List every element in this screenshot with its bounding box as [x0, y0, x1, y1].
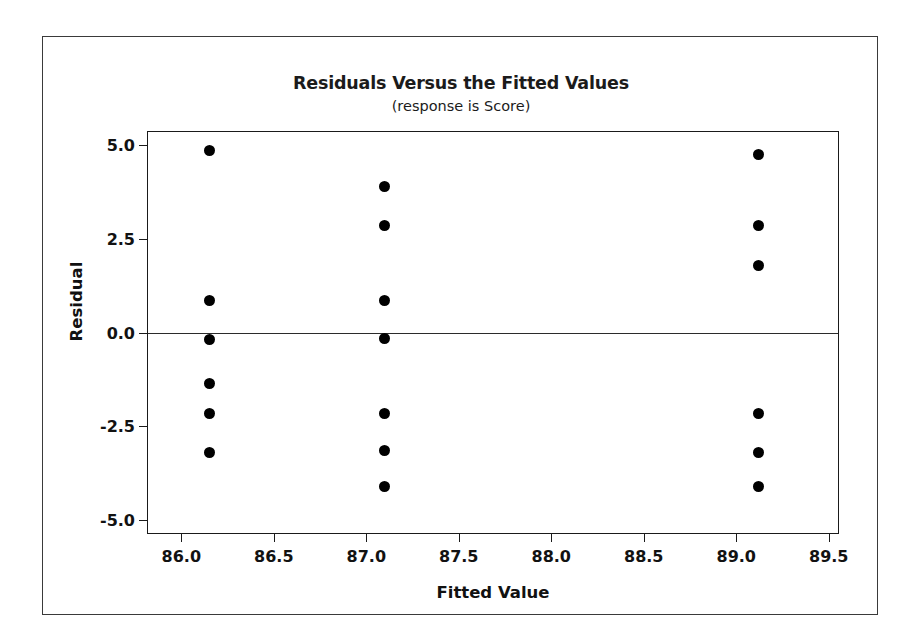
data-point: [379, 333, 390, 344]
x-axis-tick-mark: [459, 533, 460, 542]
x-axis-tick-mark: [551, 533, 552, 542]
scatter-points-layer: [148, 132, 838, 533]
data-point: [753, 260, 764, 271]
x-axis-tick-mark: [829, 533, 830, 542]
data-point: [379, 295, 390, 306]
data-point: [753, 447, 764, 458]
data-point: [204, 295, 215, 306]
y-axis-title: Residual: [67, 242, 86, 362]
x-axis-tick-label: 87.5: [439, 547, 478, 566]
y-axis-tick-label: 0.0: [107, 323, 135, 342]
data-point: [204, 447, 215, 458]
data-point: [204, 408, 215, 419]
x-axis-tick-label: 86.5: [254, 547, 293, 566]
figure-outer-frame: Residuals Versus the Fitted Values (resp…: [42, 36, 878, 615]
chart-subtitle: (response is Score): [43, 98, 879, 114]
x-axis-tick-mark: [736, 533, 737, 542]
x-axis-title: Fitted Value: [147, 583, 839, 602]
data-point: [753, 149, 764, 160]
y-axis-tick-mark: [139, 333, 148, 334]
data-point: [379, 220, 390, 231]
y-axis-tick-mark: [139, 520, 148, 521]
data-point: [204, 378, 215, 389]
x-axis-tick-label: 87.0: [347, 547, 386, 566]
data-point: [753, 408, 764, 419]
data-point: [204, 334, 215, 345]
y-axis-tick-label: -5.0: [100, 510, 135, 529]
data-point: [753, 481, 764, 492]
x-axis-tick-label: 89.5: [809, 547, 848, 566]
data-point: [379, 445, 390, 456]
y-axis-tick-mark: [139, 239, 148, 240]
x-axis-tick-label: 89.0: [717, 547, 756, 566]
chart-title: Residuals Versus the Fitted Values: [43, 73, 879, 93]
y-axis-tick-label: 2.5: [107, 229, 135, 248]
x-axis-tick-label: 88.0: [532, 547, 571, 566]
y-axis-tick-mark: [139, 426, 148, 427]
data-point: [379, 481, 390, 492]
data-point: [204, 145, 215, 156]
data-point: [379, 181, 390, 192]
x-axis-tick-mark: [366, 533, 367, 542]
x-axis-tick-mark: [181, 533, 182, 542]
data-point: [753, 220, 764, 231]
y-axis-tick-label: 5.0: [107, 136, 135, 155]
plot-area: 5.02.50.0-2.5-5.0 86.086.587.087.588.088…: [147, 131, 839, 534]
x-axis-tick-label: 86.0: [162, 547, 201, 566]
y-axis-tick-label: -2.5: [100, 417, 135, 436]
x-axis-tick-label: 88.5: [624, 547, 663, 566]
x-axis-tick-mark: [274, 533, 275, 542]
x-axis-tick-mark: [644, 533, 645, 542]
y-axis-tick-mark: [139, 145, 148, 146]
data-point: [379, 408, 390, 419]
